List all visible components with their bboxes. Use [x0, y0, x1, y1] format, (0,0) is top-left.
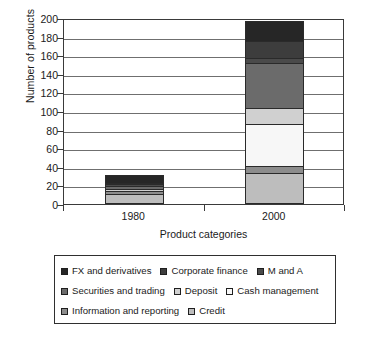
- bar-segment: [105, 194, 164, 204]
- legend-row: FX and derivativesCorporate financeM and…: [61, 261, 329, 281]
- bar-segment: [245, 108, 304, 124]
- stacked-bar: [105, 18, 164, 204]
- legend-swatch-icon: [226, 288, 233, 295]
- legend-item[interactable]: M and A: [257, 266, 303, 276]
- y-axis-tick-label: 160: [18, 51, 58, 61]
- stacked-bar: [245, 18, 304, 204]
- legend-item[interactable]: Corporate finance: [160, 266, 247, 276]
- bar-segment: [245, 41, 304, 58]
- legend-swatch-icon: [257, 268, 264, 275]
- x-axis-tick-mark: [204, 205, 205, 211]
- y-axis-tick-label: 40: [18, 163, 58, 173]
- x-axis-tick-mark: [344, 205, 345, 211]
- bar-segment: [105, 189, 164, 191]
- chart-figure: Number of products 020406080100120140160…: [0, 0, 379, 345]
- legend-swatch-icon: [174, 288, 181, 295]
- legend-item[interactable]: Cash management: [226, 286, 318, 296]
- legend-item[interactable]: Securities and trading: [61, 286, 165, 296]
- legend-item[interactable]: Credit: [188, 306, 225, 316]
- legend-label: Securities and trading: [72, 286, 165, 296]
- bar-segment: [245, 166, 304, 173]
- legend-swatch-icon: [61, 308, 68, 315]
- bar-segment: [105, 186, 164, 189]
- bar-segment: [105, 184, 164, 186]
- y-axis-tick-label: 120: [18, 88, 58, 98]
- y-axis-tick-label: 20: [18, 181, 58, 191]
- y-axis-tick-label: 60: [18, 144, 58, 154]
- bar-segment: [245, 58, 304, 63]
- legend-item[interactable]: Deposit: [174, 286, 218, 296]
- bar-segment: [245, 63, 304, 109]
- plot-area: [63, 19, 344, 205]
- legend-label: M and A: [268, 266, 303, 276]
- legend-row: Securities and tradingDepositCash manage…: [61, 281, 329, 301]
- bar-segment: [245, 124, 304, 166]
- y-axis-tick-label: 140: [18, 70, 58, 80]
- x-axis-tick-mark: [63, 205, 64, 211]
- x-axis-title: Product categories: [63, 228, 344, 240]
- y-axis-tick-label: 100: [18, 107, 58, 117]
- bar-segment: [105, 191, 164, 194]
- legend-label: Credit: [199, 306, 225, 316]
- legend-row: Information and reportingCredit: [61, 301, 329, 321]
- legend-swatch-icon: [61, 288, 68, 295]
- chart-legend: FX and derivativesCorporate financeM and…: [54, 255, 336, 324]
- x-axis-category-label: 2000: [234, 210, 314, 222]
- legend-swatch-icon: [160, 268, 167, 275]
- y-axis-tick-label: 200: [18, 14, 58, 24]
- legend-label: Information and reporting: [72, 306, 179, 316]
- y-axis-tick-label: 180: [18, 33, 58, 43]
- legend-swatch-icon: [188, 308, 195, 315]
- bar-segment: [245, 21, 304, 41]
- legend-label: Deposit: [185, 286, 218, 296]
- legend-item[interactable]: FX and derivatives: [61, 266, 151, 276]
- chart-plot-region: Number of products 020406080100120140160…: [0, 0, 379, 248]
- legend-label: Corporate finance: [171, 266, 247, 276]
- bar-segment: [245, 173, 304, 204]
- bar-segment: [105, 175, 164, 182]
- y-axis-tick-label: 0: [18, 200, 58, 210]
- legend-item[interactable]: Information and reporting: [61, 306, 179, 316]
- x-axis-category-label: 1980: [93, 210, 173, 222]
- y-axis-tick-label: 80: [18, 126, 58, 136]
- bar-segment: [105, 183, 164, 185]
- legend-label: Cash management: [237, 286, 318, 296]
- legend-swatch-icon: [61, 268, 68, 275]
- legend-label: FX and derivatives: [72, 266, 151, 276]
